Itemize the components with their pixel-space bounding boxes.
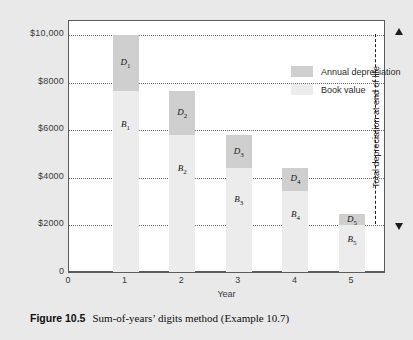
y-tick-label-0: 0	[4, 266, 64, 276]
bar-year-1: D1B1	[113, 21, 139, 273]
bar-label-book-value-1: B1	[113, 119, 139, 132]
arrow-up-icon	[395, 28, 403, 35]
x-axis-line	[68, 272, 385, 273]
annotation-label: Total depreciation at end of life	[371, 29, 381, 225]
bar-label-depreciation-2: D2	[169, 107, 195, 120]
bar-label-book-value-5: B5	[339, 234, 365, 247]
bar-label-book-value-4: B4	[282, 209, 308, 222]
total-depreciation-annotation: Total depreciation at end of life	[352, 34, 386, 224]
bar-label-depreciation-3: D3	[226, 146, 252, 159]
figure-caption-text: Sum-of-years’ digits method (Example 10.…	[92, 312, 289, 324]
x-tick-label-0: 0	[56, 275, 80, 285]
x-tick-label-4: 4	[282, 275, 306, 285]
x-tick-label-5: 5	[339, 275, 363, 285]
bar-segment-book-value-5	[339, 225, 365, 273]
bar-year-4: D4B4	[282, 21, 308, 273]
chart-plot-area: D1B1D2B2D3B3D4B4D5B5 Annual depreciation…	[68, 20, 385, 272]
legend-swatch-1	[291, 66, 313, 77]
arrow-down-icon	[395, 223, 403, 230]
bar-segment-book-value-4	[282, 191, 308, 273]
bar-segment-book-value-2	[169, 135, 195, 273]
y-tick-label-10000: $10,000	[4, 28, 64, 38]
y-tick-label-4000: $4000	[4, 171, 64, 181]
plot-inner: D1B1D2B2D3B3D4B4D5B5	[69, 21, 384, 271]
y-tick-label-6000: $6000	[4, 123, 64, 133]
y-tick-label-8000: $8000	[4, 76, 64, 86]
x-tick-label-1: 1	[113, 275, 137, 285]
bar-segment-book-value-3	[226, 168, 252, 273]
bar-year-2: D2B2	[169, 21, 195, 273]
y-tick-label-2000: $2000	[4, 218, 64, 228]
x-tick-label-2: 2	[169, 275, 193, 285]
bar-label-book-value-3: B3	[226, 194, 252, 207]
x-tick-label-3: 3	[226, 275, 250, 285]
figure-caption: Figure 10.5Sum-of-years’ digits method (…	[30, 312, 289, 324]
legend-swatch-2	[291, 84, 313, 95]
x-axis-title: Year	[68, 289, 385, 299]
bar-label-book-value-2: B2	[169, 163, 195, 176]
bar-label-depreciation-4: D4	[282, 173, 308, 186]
figure-container: 0$2000$4000$6000$8000$10,000 D1B1D2B2D3B…	[0, 0, 413, 340]
bar-label-depreciation-1: D1	[113, 57, 139, 70]
bar-year-3: D3B3	[226, 21, 252, 273]
figure-caption-label: Figure 10.5	[30, 312, 85, 324]
